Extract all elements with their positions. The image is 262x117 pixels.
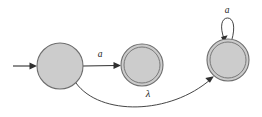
transition-q0-to-q2-arrow-head — [205, 76, 214, 82]
transition-q0-to-q1-shaft — [83, 66, 117, 67]
transition-q2-self-loop: a — [221, 5, 234, 42]
transition-q0-to-q1: a — [83, 49, 121, 69]
state-q0-circle[interactable] — [37, 43, 83, 89]
start-arrow — [13, 63, 37, 70]
transition-q0-to-q1-label: a — [98, 49, 103, 59]
state-q0[interactable] — [37, 43, 83, 89]
transition-q2-self-loop-label: a — [225, 5, 230, 15]
state-q2[interactable] — [207, 39, 249, 81]
transition-q0-to-q2-label: λ — [145, 88, 151, 99]
state-q1[interactable] — [121, 44, 163, 86]
automaton-svg: a λ a — [0, 0, 262, 117]
state-q1-inner-circle — [124, 47, 160, 83]
state-q2-inner-circle — [210, 42, 246, 78]
transition-q0-to-q1-arrow-head — [114, 62, 122, 69]
state-diagram-canvas: a λ a — [0, 0, 262, 117]
start-arrow-head — [30, 63, 38, 70]
